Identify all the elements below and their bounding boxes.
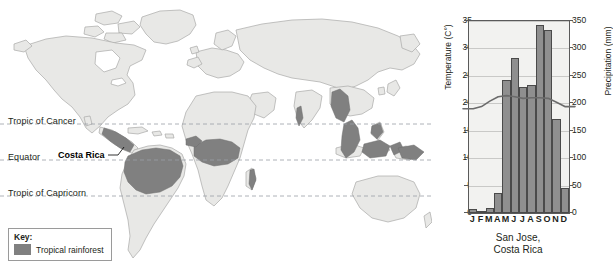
equator-label: Equator	[8, 152, 40, 162]
key-entry-label: Tropical rainforest	[36, 245, 104, 255]
chart-caption: San Jose, Costa Rica	[458, 232, 578, 256]
month-label-september: S	[535, 214, 543, 225]
month-label-june: J	[510, 214, 518, 225]
month-label-february: F	[476, 214, 484, 225]
month-label-october: O	[543, 214, 551, 225]
climate-figure: Tropic of Cancer Equator Tropic of Capri…	[0, 0, 613, 269]
tropic-of-cancer-label: Tropic of Cancer	[8, 116, 76, 126]
climate-graph-panel: Temperature (C°) Precipitation (mm) 0510…	[432, 0, 613, 269]
temperature-axis-title: Temperature (C°)	[443, 15, 453, 99]
key-entry-tropical-rainforest: Tropical rainforest	[14, 244, 107, 255]
precipitation-axis-title: Precipitation (mm)	[603, 16, 613, 106]
month-axis-labels: JFMAMJJASOND	[468, 214, 568, 225]
month-label-july: J	[518, 214, 526, 225]
month-label-april: A	[493, 214, 501, 225]
month-label-march: M	[485, 214, 493, 225]
tropic-of-capricorn-label: Tropic of Capricorn	[8, 188, 86, 198]
chart-caption-line1: San Jose,	[458, 232, 578, 244]
world-map-panel: Tropic of Cancer Equator Tropic of Capri…	[0, 0, 432, 269]
month-label-november: N	[551, 214, 559, 225]
key-swatch-icon	[14, 244, 31, 255]
month-label-january: J	[468, 214, 476, 225]
month-label-december: D	[560, 214, 568, 225]
month-label-may: M	[501, 214, 509, 225]
key-title: Key:	[14, 232, 107, 242]
costa-rica-label: Costa Rica	[58, 150, 105, 160]
month-label-august: A	[526, 214, 534, 225]
temperature-line	[463, 21, 575, 213]
map-legend-key: Key: Tropical rainforest	[8, 228, 112, 261]
plot-area	[468, 20, 570, 214]
chart-caption-line2: Costa Rica	[458, 244, 578, 256]
